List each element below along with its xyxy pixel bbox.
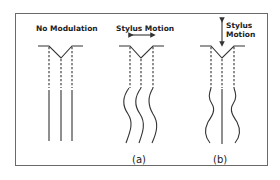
wavy-groove-right: [149, 88, 157, 143]
groove-v-shape: [200, 46, 245, 58]
wavy-groove-left: [124, 88, 131, 143]
groove-v-shape: [38, 46, 83, 58]
panel-label-vertical-line1: Stylus: [226, 21, 253, 30]
bulging-wall-right: [231, 88, 239, 143]
panel-label-no-modulation: No Modulation: [36, 24, 98, 33]
panel-label-lateral: Stylus Motion: [116, 24, 174, 33]
bulging-wall-left: [206, 88, 214, 143]
caption-a: (a): [132, 154, 146, 165]
groove-modulation-diagram: No Modulation Stylus Motion (a) Stylus M…: [0, 0, 280, 180]
panel-lateral-motion: Stylus Motion (a): [116, 24, 174, 165]
panel-label-vertical-line2: Motion: [226, 30, 255, 39]
groove-v-shape: [119, 46, 164, 58]
panel-vertical-motion: Stylus Motion (b): [200, 20, 255, 165]
caption-b: (b): [213, 154, 227, 165]
panel-no-modulation: No Modulation: [36, 24, 98, 141]
wavy-groove-center: [136, 88, 144, 143]
